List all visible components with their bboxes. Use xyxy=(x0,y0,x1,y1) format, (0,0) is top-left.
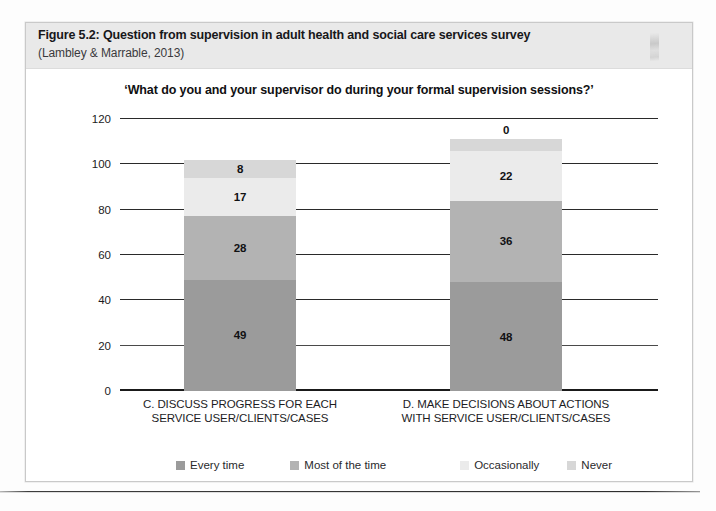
bar-value-label: 49 xyxy=(234,329,246,341)
bar-segment-0-2[interactable]: 17 xyxy=(184,178,296,217)
stacked-bar-0[interactable]: 4928178 xyxy=(184,160,296,391)
y-tick-label-80: 80 xyxy=(98,204,111,216)
bar-segment-1-2[interactable]: 22 xyxy=(450,151,562,201)
bar-segment-1-1[interactable]: 36 xyxy=(450,201,562,283)
legend-label: Most of the time xyxy=(304,459,386,471)
chart-legend: Every timeMost of the timeOccasionallyNe… xyxy=(120,459,658,471)
legend-swatch-icon xyxy=(290,461,299,470)
category-label-line: WITH SERVICE USER/CLIENTS/CASES xyxy=(386,411,626,425)
bar-segment-1-0[interactable]: 48 xyxy=(450,282,562,391)
legend-label: Occasionally xyxy=(474,459,539,471)
scan-artifact-mark xyxy=(650,33,659,61)
y-tick-label-20: 20 xyxy=(98,340,111,352)
legend-swatch-icon xyxy=(567,461,576,470)
bar-value-label: 17 xyxy=(234,191,246,203)
category-label-line: SERVICE USER/CLIENTS/CASES xyxy=(120,411,360,425)
bar-value-label: 8 xyxy=(237,163,243,175)
legend-item-0[interactable]: Every time xyxy=(176,459,244,471)
bar-segment-1-3[interactable]: 0 xyxy=(450,139,562,151)
legend-item-1[interactable]: Most of the time xyxy=(290,459,386,471)
category-label-line: D. MAKE DECISIONS ABOUT ACTIONS xyxy=(386,397,626,411)
legend-label: Never xyxy=(581,459,612,471)
legend-item-2[interactable]: Occasionally xyxy=(460,459,539,471)
category-label-line: C. DISCUSS PROGRESS FOR EACH xyxy=(120,397,360,411)
category-label-1: D. MAKE DECISIONS ABOUT ACTIONSWITH SERV… xyxy=(386,397,626,425)
y-tick-label-100: 100 xyxy=(92,158,111,170)
plot-area: 020406080100120 49281784836220 C. DISCUS… xyxy=(120,119,658,391)
bar-value-label: 22 xyxy=(500,170,512,182)
chart-title: ‘What do you and your supervisor do duri… xyxy=(26,83,692,97)
stacked-bar-1[interactable]: 4836220 xyxy=(450,139,562,391)
legend-item-3[interactable]: Never xyxy=(567,459,612,471)
figure-citation: (Lambley & Marrable, 2013) xyxy=(38,46,184,60)
page-divider-shadow xyxy=(0,492,700,493)
bar-segment-0-0[interactable]: 49 xyxy=(184,280,296,391)
gridline-120 xyxy=(120,118,658,119)
legend-swatch-icon xyxy=(176,461,185,470)
figure-frame: Figure 5.2: Question from supervision in… xyxy=(25,22,693,482)
y-tick-label-60: 60 xyxy=(98,249,111,261)
y-tick-label-120: 120 xyxy=(92,113,111,125)
bar-value-label: 48 xyxy=(500,331,512,343)
legend-label: Every time xyxy=(190,459,244,471)
bar-segment-0-3[interactable]: 8 xyxy=(184,160,296,178)
bar-value-label: 36 xyxy=(500,235,512,247)
scanned-page: Figure 5.2: Question from supervision in… xyxy=(0,0,716,511)
category-label-0: C. DISCUSS PROGRESS FOR EACHSERVICE USER… xyxy=(120,397,360,425)
bar-segment-0-1[interactable]: 28 xyxy=(184,216,296,279)
bar-value-label: 28 xyxy=(234,242,246,254)
bar-value-label: 0 xyxy=(450,124,562,136)
legend-swatch-icon xyxy=(460,461,469,470)
figure-header: Figure 5.2: Question from supervision in… xyxy=(26,23,692,69)
figure-title: Figure 5.2: Question from supervision in… xyxy=(38,28,530,42)
y-tick-label-0: 0 xyxy=(105,385,111,397)
y-tick-label-40: 40 xyxy=(98,294,111,306)
